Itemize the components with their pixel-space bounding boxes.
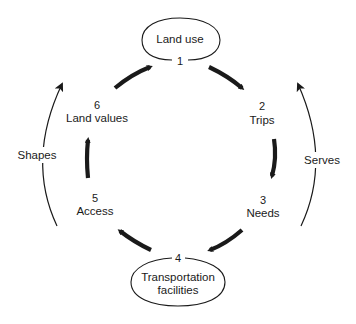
arrow-4-to-5-icon [120, 231, 151, 250]
shapes-label: Shapes [17, 149, 56, 161]
node-land-values: 6 Land values [66, 99, 128, 124]
node-access: 5 Access [76, 192, 113, 217]
land-use-transportation-cycle-diagram: Land use 1 2 Trips 3 Needs 4 Transportat… [0, 0, 356, 324]
outer-arc-right: Serves [298, 84, 346, 226]
node-trips: 2 Trips [249, 100, 274, 126]
arrow-6-to-1-icon [115, 67, 150, 88]
node-land-use: Land use 1 [142, 18, 220, 67]
arrow-2-to-3-icon [272, 139, 275, 176]
needs-label: Needs [246, 207, 279, 219]
node-4-number: 4 [175, 252, 181, 264]
land-values-label: Land values [66, 112, 128, 124]
access-label: Access [76, 205, 113, 217]
node-3-number: 3 [260, 194, 266, 206]
transportation-label-line1: Transportation [141, 271, 215, 283]
arrow-5-to-6-icon [87, 140, 88, 178]
node-needs: 3 Needs [246, 194, 279, 219]
serves-label: Serves [304, 154, 340, 166]
transportation-label-line2: facilities [158, 284, 199, 296]
trips-label: Trips [249, 114, 274, 126]
outer-arc-left: Shapes [14, 84, 62, 226]
arrow-3-to-4-icon [210, 230, 242, 250]
cycle-arrows [87, 67, 275, 250]
node-transportation-facilities: 4 Transportation facilities [131, 252, 225, 306]
node-1-number: 1 [177, 55, 183, 67]
land-use-label: Land use [156, 33, 203, 45]
arrow-1-to-2-icon [209, 67, 242, 88]
node-5-number: 5 [92, 192, 98, 204]
node-2-number: 2 [259, 100, 265, 112]
node-6-number: 6 [94, 99, 100, 111]
